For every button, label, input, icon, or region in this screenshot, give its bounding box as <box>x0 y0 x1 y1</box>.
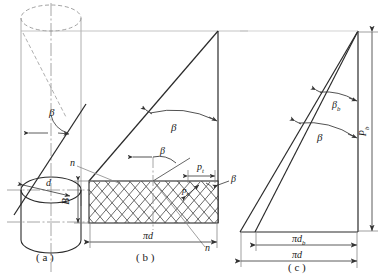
panel-b-upper-beta-arc <box>150 110 215 120</box>
panel-b-mid-beta-label: β <box>160 146 165 156</box>
normal-pitch-label: pn <box>182 186 190 197</box>
panel-c-outer-hypotenuse <box>240 31 358 232</box>
panel-b-geometry <box>36 31 260 248</box>
panel-c-inner-hypotenuse <box>255 31 358 232</box>
panel-c-beta-b-arrow-left <box>316 90 322 93</box>
panel-b-upper-beta-label: β <box>171 122 176 133</box>
panel-b-normal-top-label: n <box>70 158 75 168</box>
developed-band-rectangle <box>89 181 218 223</box>
transverse-pitch-label: pt <box>197 162 204 175</box>
panel-b-mid-beta-arc <box>153 156 176 163</box>
face-width-label: B <box>60 198 71 205</box>
panel-b-normal-bottom-label: n <box>205 243 210 253</box>
helix-construction-line-dashed <box>23 33 66 117</box>
panel-b-edge-beta-leader <box>218 181 229 185</box>
panel-c-beta-label: β <box>317 132 322 143</box>
lead-Pb-label: Pb <box>358 127 371 137</box>
helix-angle-figure <box>0 0 391 275</box>
panel-c-beta-b-label: βb <box>332 100 340 113</box>
helix-tangent-line <box>14 104 86 215</box>
panel-c-caption: ( c ) <box>288 262 306 273</box>
panel-c-beta-arrow-right <box>348 134 357 138</box>
panel-a-caption: ( a ) <box>36 252 54 263</box>
panel-c-geometry <box>240 31 378 268</box>
panel-b-pid-label: πd <box>143 231 153 241</box>
panel-c-pid-label: πd <box>292 250 302 260</box>
panel-b-mid-inclined-ray <box>153 158 190 181</box>
panel-a-geometry <box>7 3 248 272</box>
panel-b-hypotenuse <box>89 31 218 181</box>
panel-b-edge-beta-label: β <box>231 174 236 184</box>
panel-a-diameter-label: d <box>46 178 51 188</box>
panel-c-pidb-label: πdb <box>292 234 305 247</box>
technical-diagram-canvas: β d ( a ) β β β pt pn B n n πd ( b ) βb … <box>0 0 391 275</box>
panel-b-caption: ( b ) <box>136 252 154 263</box>
panel-a-beta-label: β <box>49 107 54 118</box>
panel-b-upper-beta-arrow-right <box>209 117 217 121</box>
